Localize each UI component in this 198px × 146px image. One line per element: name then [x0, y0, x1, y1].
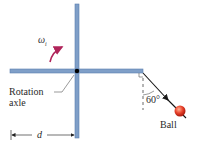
ball-label: Ball: [160, 119, 177, 130]
right-angle-mark: [139, 73, 143, 77]
axle-leader-line: [54, 75, 74, 92]
angle-label: 60°: [146, 94, 160, 105]
ball: [175, 106, 186, 117]
omega-arrow-icon: [50, 47, 62, 62]
rotation-axle-line1: Rotation: [9, 86, 43, 97]
omega-subscript: i: [45, 41, 47, 47]
omega-symbol: ω: [38, 34, 45, 45]
omega-label: ωi: [38, 34, 47, 47]
axle-dot: [75, 69, 80, 74]
rotation-axle-label: Rotation axle: [9, 86, 43, 108]
distance-label: d: [37, 129, 42, 140]
rotation-axle-line2: axle: [9, 97, 43, 108]
